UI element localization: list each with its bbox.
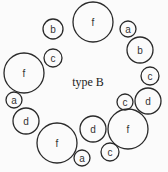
circle-c: c bbox=[117, 94, 133, 110]
circle-a: a bbox=[74, 150, 90, 166]
circle-label: f bbox=[127, 124, 130, 135]
circle-label: c bbox=[51, 53, 56, 64]
circle-label: a bbox=[11, 95, 17, 106]
circle-f: f bbox=[108, 109, 148, 149]
circle-c: c bbox=[44, 49, 62, 67]
circle-label: f bbox=[56, 138, 59, 149]
diagram-title: type B bbox=[64, 75, 112, 90]
circle-f: f bbox=[37, 123, 77, 163]
circle-label: f bbox=[92, 17, 95, 28]
circle-label: c bbox=[108, 147, 113, 158]
circle-label: a bbox=[125, 24, 131, 35]
circle-label: d bbox=[23, 116, 29, 127]
circle-d: d bbox=[80, 116, 106, 142]
circle-label: b bbox=[50, 24, 56, 35]
circle-f: f bbox=[73, 2, 113, 42]
circle-label: d bbox=[90, 124, 96, 135]
circle-f: f bbox=[4, 53, 44, 93]
circle-d: d bbox=[135, 88, 161, 114]
circle-a: a bbox=[6, 92, 22, 108]
circle-label: c bbox=[123, 97, 128, 108]
circle-b: b bbox=[43, 19, 63, 39]
circle-b: b bbox=[127, 37, 153, 63]
circle-label: a bbox=[79, 153, 85, 164]
circle-c: c bbox=[141, 67, 159, 85]
circle-label: f bbox=[23, 68, 26, 79]
circle-label: c bbox=[148, 71, 153, 82]
circle-label: d bbox=[145, 96, 151, 107]
circle-d: d bbox=[13, 108, 39, 134]
diagram-canvas: bfabccfadfdacfcd type B bbox=[0, 0, 168, 172]
circle-label: b bbox=[137, 45, 143, 56]
circle-a: a bbox=[120, 21, 136, 37]
